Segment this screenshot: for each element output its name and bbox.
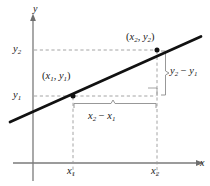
x-axis-label: x <box>200 158 204 168</box>
run-brace <box>74 100 156 108</box>
figure-container: y x y2 y1 x1 x2 (x1, y1) (x2, y2) y2 − y… <box>0 0 210 186</box>
rise-label: y2 − y1 <box>170 66 197 78</box>
right-angle-marker <box>148 88 157 96</box>
x-axis <box>13 160 204 166</box>
y-tick-label-y1: y1 <box>13 90 21 102</box>
point-marker-1 <box>71 94 76 99</box>
point-2-label: (x2, y2) <box>126 32 155 44</box>
point-1-label: (x1, y1) <box>42 71 71 83</box>
y-axis-arrowhead <box>30 14 36 22</box>
point-marker-2 <box>155 48 160 53</box>
y-tick-label-y2: y2 <box>13 44 21 56</box>
coordinate-plane-graphic <box>0 0 210 186</box>
x-tick-label-x1: x1 <box>67 166 75 178</box>
x-tick-label-x2: x2 <box>151 166 159 178</box>
rise-brace <box>161 51 169 95</box>
y-axis-label: y <box>33 4 37 14</box>
y-axis <box>30 14 36 182</box>
run-label: x2 − x1 <box>88 111 115 123</box>
